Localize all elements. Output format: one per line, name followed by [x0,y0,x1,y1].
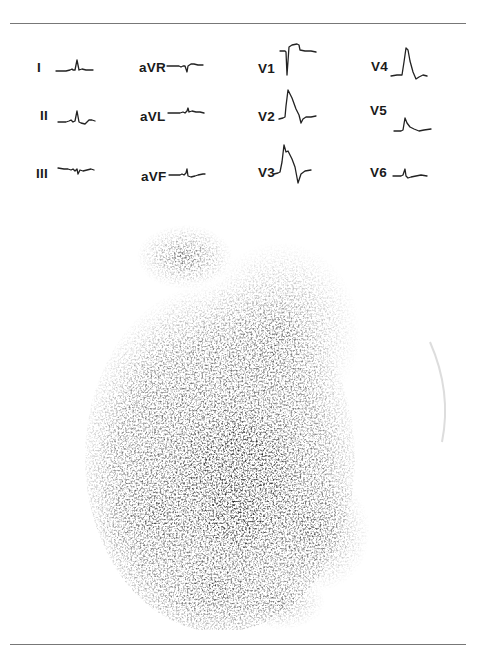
lead-label-V6: V6 [370,166,387,180]
lead-label-V2: V2 [258,110,275,124]
ecg-panel: I II III aVR aVL aVF V1 V2 V3 V4 V5 V [0,0,479,200]
collimator-edge [430,342,445,442]
ecg-trace-V3 [274,140,324,190]
scintigram-render [80,212,460,630]
lead-label-aVF: aVF [141,170,167,184]
ecg-trace-aVL [168,103,210,121]
lead-label-V1: V1 [258,62,275,76]
lead-label-II: II [40,109,48,123]
scintigram-image [80,212,460,630]
ecg-trace-V6 [393,164,437,184]
lead-label-III: III [36,167,48,181]
ecg-trace-V1 [280,42,324,80]
lead-label-V3: V3 [258,166,275,180]
ecg-trace-V5 [394,114,438,138]
ecg-trace-aVR [167,58,209,76]
ecg-trace-III [58,162,100,182]
ecg-trace-V2 [279,86,325,132]
lead-label-V5: V5 [370,104,387,118]
lead-label-I: I [37,61,41,75]
bottom-rule [10,644,466,645]
lead-label-V4: V4 [371,60,388,74]
lead-label-aVL: aVL [140,110,166,124]
ecg-trace-aVF [169,164,211,184]
lead-label-aVR: aVR [139,61,166,75]
ecg-trace-V4 [391,44,435,86]
ecg-trace-II [58,107,100,129]
ecg-trace-I [56,56,96,76]
